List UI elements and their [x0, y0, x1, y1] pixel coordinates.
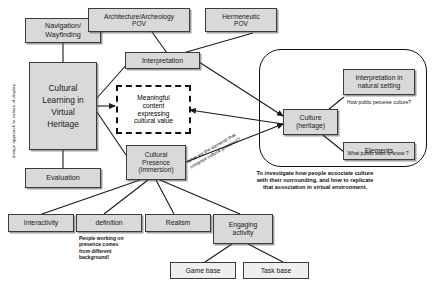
node-engaging-activity-line1: Engaging — [229, 221, 258, 229]
node-interactivity-label: Interactivity — [24, 219, 58, 227]
node-evaluation[interactable]: Evaluation — [25, 168, 101, 188]
node-cultural-presence-line3: (Immersion) — [138, 166, 173, 173]
node-task-base[interactable]: Task base — [243, 262, 309, 279]
node-cultural-presence-line1: Cultural — [145, 151, 168, 158]
note-investigate-line3: that association in virtual environment. — [225, 184, 405, 191]
note-presence-background-line4: background! — [79, 254, 149, 260]
node-interpretation-natural-line2: natural setting — [358, 82, 401, 90]
node-architecture-pov-line1: Architecture/Archeology — [104, 13, 174, 20]
node-cultural-learning-line2: Learning in — [42, 94, 83, 106]
node-interactivity[interactable]: Interactivity — [8, 214, 74, 232]
node-navigation-wayfinding-line2: Wayfinding — [45, 31, 80, 39]
node-cultural-learning-line3: Virtual — [51, 106, 75, 118]
node-interpretation[interactable]: Interpretation — [125, 52, 200, 69]
node-cultural-learning-line4: Heritage — [47, 118, 79, 130]
note-how-public-perceive: How public perceive culture? — [333, 99, 425, 105]
node-definition[interactable]: definition — [76, 214, 142, 232]
node-evaluation-label: Evaluation — [46, 174, 80, 182]
node-game-base[interactable]: Game base — [170, 262, 236, 279]
note-investigate-statement: To investigate how people associate cult… — [225, 170, 405, 191]
node-realism-label: Realism — [166, 219, 191, 227]
node-interpretation-natural-line1: Interpretation in — [355, 74, 402, 82]
node-culture-heritage-line1: Culture — [300, 114, 322, 122]
node-game-base-label: Game base — [185, 267, 220, 275]
node-cultural-presence[interactable]: Cultural Presence (Immersion) — [126, 145, 186, 180]
node-meaningful-line1: Meaningful — [137, 94, 169, 102]
node-cultural-learning-virtual-heritage[interactable]: Cultural Learning in Virtual Heritage — [29, 62, 97, 150]
node-meaningful-content[interactable]: Meaningful content expressing cultural v… — [116, 85, 191, 134]
node-task-base-label: Task base — [261, 267, 292, 275]
note-what-public-want: What public want to know ? — [330, 150, 426, 156]
note-presence-background: People working on presence comes from di… — [79, 235, 149, 260]
node-engaging-activity[interactable]: Engaging activity — [213, 214, 273, 244]
node-hermeneutic-pov-line2: POV — [234, 20, 248, 27]
node-meaningful-line2: content — [143, 102, 165, 110]
node-realism[interactable]: Realism — [145, 214, 211, 232]
node-architecture-pov-line2: POV — [132, 20, 146, 27]
note-investigate-line2: with their surrounding, and how to repli… — [225, 177, 405, 184]
node-culture-heritage[interactable]: Culture (heritage) — [283, 109, 338, 135]
node-engaging-activity-line2: activity — [233, 229, 254, 237]
node-hermeneutic-pov-line1: Hermeneutic — [222, 13, 259, 20]
diagram-canvas: design approach to culture of display Na… — [0, 0, 432, 288]
node-interpretation-natural-setting[interactable]: Interpretation in natural setting — [343, 69, 415, 95]
node-architecture-archeology-pov[interactable]: Architecture/Archeology POV — [88, 8, 190, 32]
node-meaningful-line3: expressing — [138, 110, 170, 118]
node-definition-label: definition — [95, 219, 122, 227]
node-hermeneutic-pov[interactable]: Hermeneutic POV — [205, 8, 277, 32]
node-culture-heritage-line2: (heritage) — [296, 122, 325, 130]
vertical-axis-label: design approach to culture of display — [11, 84, 16, 158]
note-investigate-line1: To investigate how people associate cult… — [225, 170, 405, 177]
node-cultural-learning-line1: Cultural — [49, 82, 78, 94]
node-interpretation-label: Interpretation — [142, 57, 183, 65]
node-meaningful-line4: cultural value — [134, 117, 173, 125]
node-cultural-presence-line2: Presence — [142, 159, 170, 166]
